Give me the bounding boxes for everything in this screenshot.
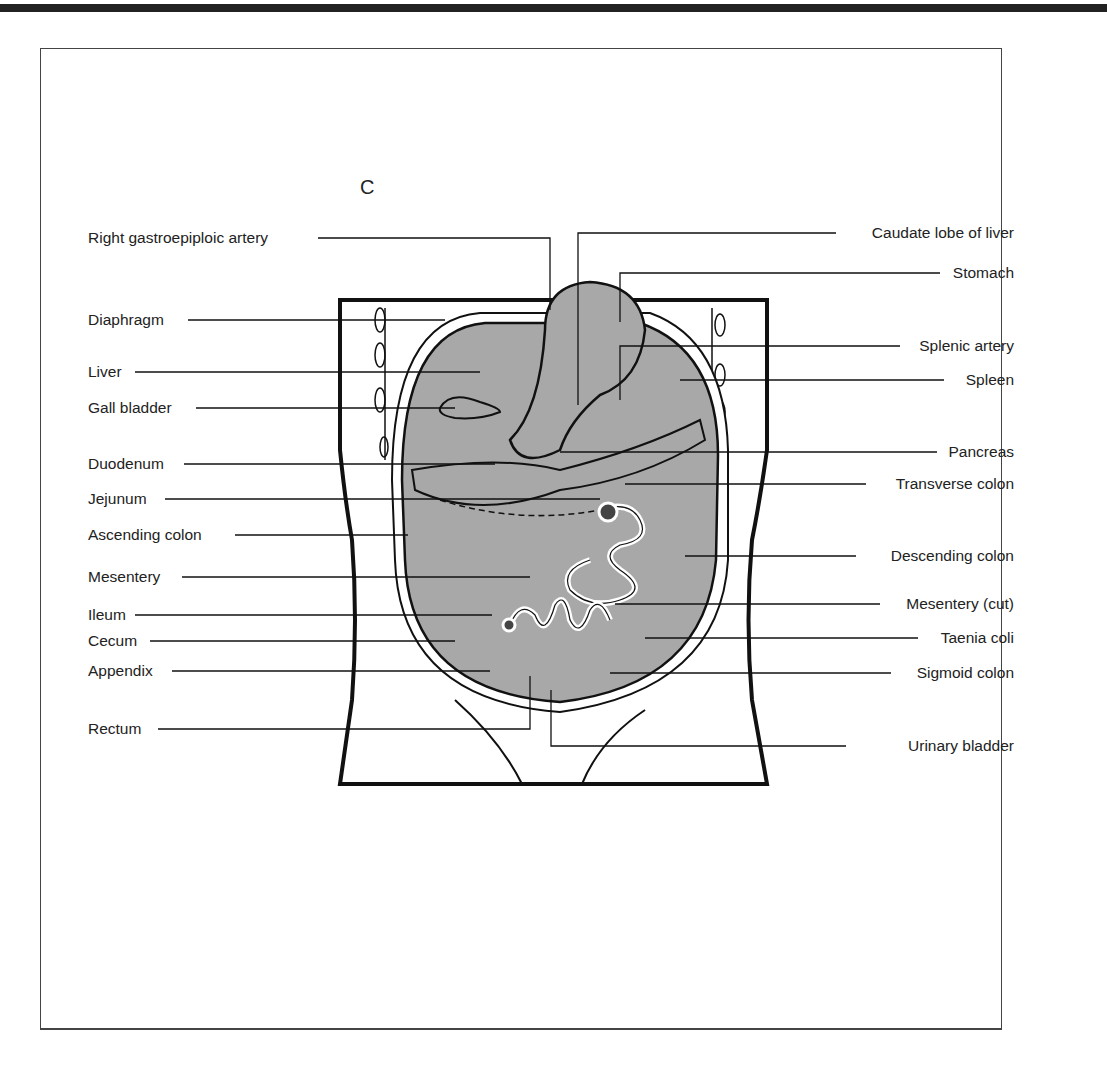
label-mesentery-cut: Mesentery (cut) (906, 595, 1014, 613)
label-sigmoid-colon: Sigmoid colon (917, 664, 1014, 682)
label-appendix: Appendix (88, 662, 153, 680)
label-duodenum: Duodenum (88, 455, 164, 473)
label-pancreas: Pancreas (949, 443, 1014, 461)
label-diaphragm: Diaphragm (88, 311, 164, 329)
label-jejunum: Jejunum (88, 490, 147, 508)
label-urinary-bladder: Urinary bladder (908, 737, 1014, 755)
label-splenic-artery: Splenic artery (919, 337, 1014, 355)
label-spleen: Spleen (966, 371, 1014, 389)
label-transverse-colon: Transverse colon (896, 475, 1014, 493)
label-cecum: Cecum (88, 632, 137, 650)
label-liver: Liver (88, 363, 122, 381)
label-rectum: Rectum (88, 720, 141, 738)
label-gall-bladder: Gall bladder (88, 399, 172, 417)
label-ascending-colon: Ascending colon (88, 526, 202, 544)
label-descending-colon: Descending colon (891, 547, 1014, 565)
label-caudate-lobe-of-liver: Caudate lobe of liver (872, 224, 1014, 242)
label-right-gastroepiploic-artery: Right gastroepiploic artery (88, 229, 268, 247)
label-mesentery: Mesentery (88, 568, 160, 586)
label-ileum: Ileum (88, 606, 126, 624)
label-stomach: Stomach (953, 264, 1014, 282)
label-taenia-coli: Taenia coli (941, 629, 1014, 647)
